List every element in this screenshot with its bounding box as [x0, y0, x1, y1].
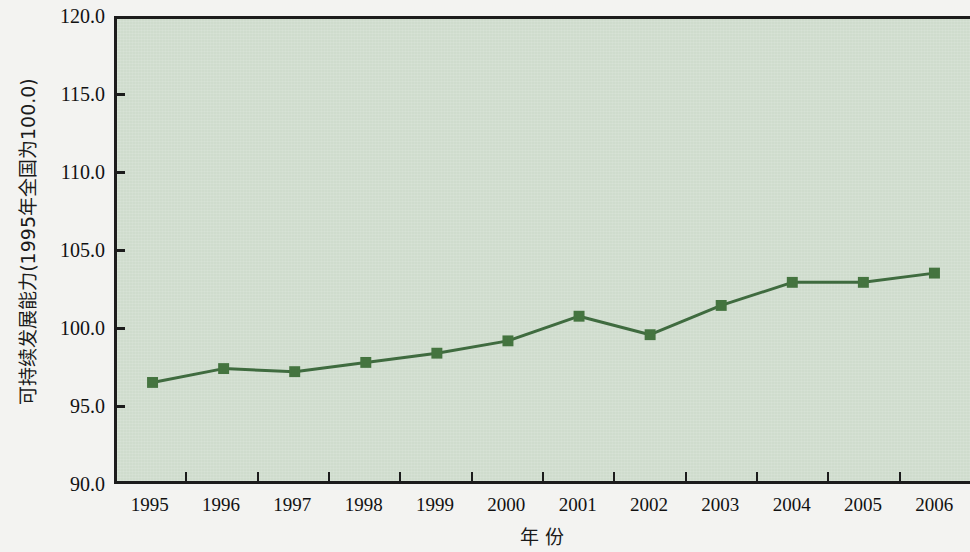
x-tick-label: 1999: [395, 494, 475, 516]
series-line-chart: [117, 19, 970, 481]
data-point-marker: [502, 335, 513, 346]
data-point-marker: [716, 300, 727, 311]
x-tick-mark: [613, 472, 615, 484]
x-tick-label: 2006: [894, 494, 970, 516]
y-tick-label: 105.0: [33, 239, 105, 262]
series-line: [153, 273, 935, 382]
x-tick-mark: [756, 472, 758, 484]
y-axis-tick-labels: 90.095.0100.0105.0110.0115.0120.0: [30, 0, 105, 552]
x-tick-label: 2000: [466, 494, 546, 516]
y-tick-mark: [114, 171, 125, 174]
x-tick-label: 2001: [538, 494, 618, 516]
data-point-marker: [431, 348, 442, 359]
data-point-marker: [147, 377, 158, 388]
data-point-marker: [360, 357, 371, 368]
x-tick-mark: [399, 472, 401, 484]
x-tick-label: 2004: [752, 494, 832, 516]
y-tick-label: 120.0: [33, 5, 105, 28]
y-tick-mark: [114, 405, 125, 408]
x-tick-label: 1997: [252, 494, 332, 516]
y-tick-label: 115.0: [33, 83, 105, 106]
y-tick-mark: [114, 327, 125, 330]
y-tick-mark: [114, 93, 125, 96]
data-point-marker: [929, 268, 940, 279]
data-point-marker: [787, 277, 798, 288]
x-tick-mark: [185, 472, 187, 484]
data-point-marker: [574, 311, 585, 322]
y-tick-mark: [114, 249, 125, 252]
plot-area: [114, 16, 970, 484]
x-tick-label: 1998: [324, 494, 404, 516]
x-tick-mark: [542, 472, 544, 484]
y-tick-label: 100.0: [33, 317, 105, 340]
x-tick-label: 2005: [823, 494, 903, 516]
x-tick-label: 1995: [110, 494, 190, 516]
y-tick-label: 110.0: [33, 161, 105, 184]
x-tick-mark: [257, 472, 259, 484]
x-tick-mark: [471, 472, 473, 484]
x-axis-title: 年 份: [114, 522, 970, 549]
x-tick-mark: [899, 472, 901, 484]
x-tick-mark: [685, 472, 687, 484]
y-tick-label: 95.0: [33, 395, 105, 418]
data-point-marker: [645, 329, 656, 340]
x-tick-label: 1996: [181, 494, 261, 516]
x-tick-mark: [827, 472, 829, 484]
data-point-marker: [218, 363, 229, 374]
x-tick-label: 2003: [680, 494, 760, 516]
data-point-marker: [289, 366, 300, 377]
data-point-marker: [858, 277, 869, 288]
chart-figure: 可持续发展能力(1995年全国为100.0) 90.095.0100.0105.…: [0, 0, 970, 552]
y-tick-label: 90.0: [33, 473, 105, 496]
x-tick-mark: [328, 472, 330, 484]
x-tick-label: 2002: [609, 494, 689, 516]
